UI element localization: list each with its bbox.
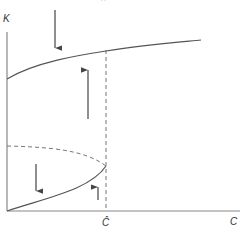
unstable-branch [7, 146, 106, 166]
lower-stable-branch [7, 166, 106, 211]
c-hat-label: Ĉ [102, 216, 110, 228]
x-axis-label: C [230, 216, 238, 227]
bifurcation-diagram: ·· K C Ĉ [0, 0, 245, 233]
top-cropped-glyph: ·· [100, 0, 107, 5]
y-axis-label: K [3, 13, 11, 24]
upper-stable-branch [7, 40, 201, 79]
